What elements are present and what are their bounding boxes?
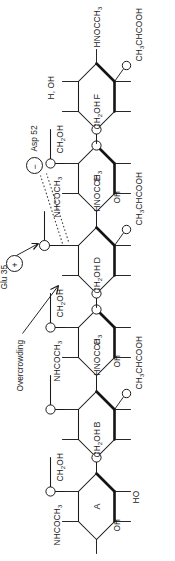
- label-oh-e: OH: [112, 190, 120, 203]
- label-ho-a: HO: [131, 490, 139, 503]
- label-nhcoch3-e: NHCOCH3: [52, 176, 60, 217]
- asp52-charge: −: [29, 164, 39, 169]
- label-nhcoch3-c: NHCOCH3: [52, 340, 60, 381]
- label-hnocch3-f: HNOCCH3: [92, 6, 100, 47]
- ring-label-b: B: [91, 421, 101, 427]
- label-ch2oh-d: CH2OH: [55, 288, 63, 317]
- label-ch2oh-c: CH2OH: [92, 264, 100, 293]
- glu35-charge: +: [9, 262, 19, 267]
- structure-drawing: [0, 0, 175, 561]
- residue-label-asp52: Asp 52: [28, 125, 38, 151]
- residue-label-glu35: Glu 35: [0, 264, 8, 289]
- label-ch2oh-a: CH2OH: [92, 428, 100, 457]
- label-ch3chcooh-b: CH3CHCOOH: [134, 335, 142, 389]
- label-hnocch3-b: HNOCCH3: [92, 334, 100, 375]
- label-hnocch3-d: HNOCCH3: [92, 170, 100, 211]
- label-h-oh-f: H, OH: [46, 75, 54, 99]
- label-oh-a: OH: [112, 518, 120, 531]
- figure-canvas: A B C D E F NHCOCH3 OH HO CH2OH CH2OH HN…: [0, 0, 175, 561]
- label-ch2oh-e: CH2OH: [92, 100, 100, 129]
- ring-label-d: D: [91, 257, 101, 264]
- label-ch2oh-f: CH2OH: [55, 124, 63, 153]
- ring-label-f: F: [91, 94, 101, 100]
- chemical-structure-figure: A B C D E F NHCOCH3 OH HO CH2OH CH2OH HN…: [0, 0, 175, 561]
- label-ch3chcooh-f: CH3CHCOOH: [134, 7, 142, 61]
- annotation-overcrowding: Overcrowding: [14, 339, 24, 391]
- label-ch3chcooh-d: CH3CHCOOH: [134, 171, 142, 225]
- label-oh-c: OH: [112, 354, 120, 367]
- label-nhcoch3-a: NHCOCH3: [52, 504, 60, 545]
- label-ch2oh-b: CH2OH: [55, 452, 63, 481]
- ring-label-a: A: [91, 503, 101, 509]
